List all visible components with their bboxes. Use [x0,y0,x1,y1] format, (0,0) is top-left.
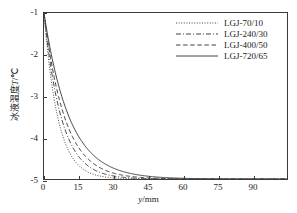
legend-label: LGJ-240/30 [218,29,268,39]
legend-item: LGJ-720/65 [176,50,284,61]
y-tick-label: -2 [18,49,38,59]
x-tick [219,176,220,180]
legend-label: LGJ-70/10 [218,18,263,28]
x-tick [79,176,80,180]
y-axis-unit: /℃ [10,68,20,81]
x-tick [254,176,255,180]
x-tick-label: 45 [133,182,163,192]
legend-line-sample [176,19,218,27]
y-tick-label: -1 [18,7,38,17]
y-tick-label: -3 [18,91,38,101]
y-tick-label: -5 [18,175,38,185]
x-tick-label: 75 [203,182,233,192]
x-tick [114,176,115,180]
legend-label: LGJ-720/65 [218,51,268,61]
x-axis-unit: /mm [142,194,159,204]
x-tick-label: 30 [98,182,128,192]
y-tick [43,55,47,56]
x-tick [44,176,45,180]
y-tick [43,13,47,14]
x-tick [184,176,185,180]
legend-item: LGJ-70/10 [176,17,284,28]
y-tick [43,97,47,98]
chart-figure: y/mm 冰液温度T/℃ LGJ-70/10LGJ-240/30LGJ-400/… [0,0,297,213]
x-tick-label: 15 [63,182,93,192]
legend-label: LGJ-400/50 [218,40,268,50]
legend-item: LGJ-400/50 [176,39,284,50]
legend-line-sample [176,41,218,49]
chart-legend: LGJ-70/10LGJ-240/30LGJ-400/50LGJ-720/65 [176,17,284,61]
y-axis-symbol: T [10,80,20,85]
x-tick [149,176,150,180]
legend-line-sample [176,52,218,60]
x-tick-label: 90 [238,182,268,192]
y-tick-label: -4 [18,133,38,143]
legend-line-sample [176,30,218,38]
x-axis-label: y/mm [0,194,297,204]
y-tick [43,139,47,140]
x-tick-label: 60 [168,182,198,192]
legend-item: LGJ-240/30 [176,28,284,39]
